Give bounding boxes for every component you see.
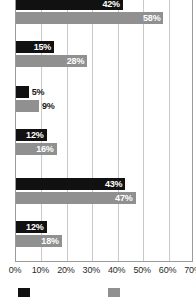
- bar-value-label: 28%: [67, 57, 87, 66]
- bar-value-label: 5%: [29, 88, 45, 97]
- bar-group: 5%9%: [16, 86, 192, 112]
- bar-value-label: 15%: [34, 43, 54, 52]
- bar-value-label: 12%: [26, 223, 46, 232]
- bar-dark[interactable]: 5%: [16, 86, 29, 98]
- bar-dark[interactable]: 42%: [16, 0, 123, 10]
- bar-value-label: 18%: [41, 237, 61, 246]
- bar-light[interactable]: 28%: [16, 55, 87, 67]
- plot-area: 42%58%15%28%5%9%12%16%43%47%12%18%: [15, 0, 193, 262]
- legend-swatch-icon: [18, 288, 30, 297]
- x-axis-tick-label: 40%: [108, 265, 125, 275]
- bar-value-label: 9%: [39, 102, 55, 111]
- bar-value-label: 58%: [143, 14, 163, 23]
- bar-chart: 42%58%15%28%5%9%12%16%43%47%12%18% 0%10%…: [0, 0, 196, 301]
- bar-light[interactable]: 9%: [16, 100, 39, 112]
- bar-dark[interactable]: 15%: [16, 41, 54, 53]
- x-axis-tick-label: 10%: [32, 265, 49, 275]
- bar-group: 42%58%: [16, 0, 192, 24]
- bar-group: 43%47%: [16, 178, 192, 204]
- bar-value-label: 16%: [36, 145, 56, 154]
- legend-item-series-1[interactable]: [18, 288, 34, 297]
- x-axis-tick-label: 30%: [83, 265, 100, 275]
- bar-group: 15%28%: [16, 41, 192, 67]
- legend-swatch-icon: [108, 288, 120, 297]
- x-axis-tick-label: 60%: [159, 265, 176, 275]
- bar-value-label: 47%: [115, 194, 135, 203]
- bar-light[interactable]: 58%: [16, 12, 163, 24]
- x-axis-tick-label: 70%: [184, 265, 196, 275]
- bar-value-label: 43%: [105, 180, 125, 189]
- bar-value-label: 12%: [26, 131, 46, 140]
- bar-group: 12%16%: [16, 129, 192, 155]
- bar-value-label: 42%: [102, 0, 122, 9]
- x-axis-tick-label: 50%: [133, 265, 150, 275]
- bar-group: 12%18%: [16, 221, 192, 247]
- bar-dark[interactable]: 43%: [16, 178, 125, 190]
- x-axis-ticks: 0%10%20%30%40%50%60%70%: [0, 265, 196, 279]
- chart-legend: [0, 288, 196, 301]
- legend-item-series-2[interactable]: [108, 288, 124, 297]
- x-axis-tick-label: 0%: [9, 265, 22, 275]
- bar-light[interactable]: 18%: [16, 235, 62, 247]
- bar-light[interactable]: 47%: [16, 192, 136, 204]
- bar-dark[interactable]: 12%: [16, 221, 47, 233]
- bar-dark[interactable]: 12%: [16, 129, 47, 141]
- bar-light[interactable]: 16%: [16, 143, 57, 155]
- x-axis-tick-label: 20%: [57, 265, 74, 275]
